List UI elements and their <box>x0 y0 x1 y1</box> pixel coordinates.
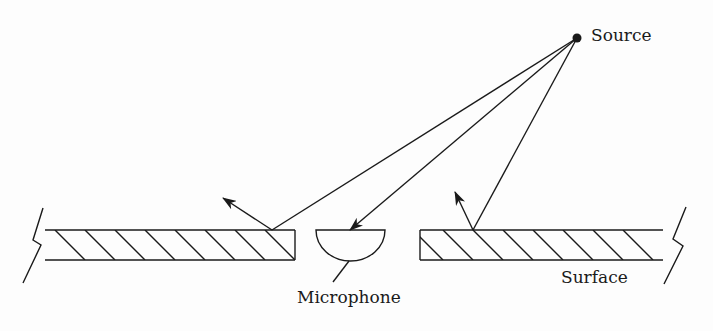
source-point <box>573 34 582 43</box>
microphone-label: Microphone <box>297 287 401 307</box>
left-break-mark <box>23 208 43 283</box>
left-surface-slab <box>45 230 295 260</box>
source-label: Source <box>591 25 652 45</box>
left-reflected-ray <box>223 198 272 230</box>
ray-to-right-reflection <box>473 38 577 230</box>
diagram-canvas: Source Microphone Surface <box>0 0 713 331</box>
right-surface-slab <box>413 230 663 260</box>
direct-ray-to-microphone <box>350 38 577 230</box>
ray-to-left-reflection <box>272 38 577 230</box>
microphone-icon <box>316 230 385 282</box>
right-hatching <box>413 230 653 260</box>
left-hatching <box>55 230 295 260</box>
right-reflected-ray <box>455 192 473 230</box>
right-break-mark <box>664 207 686 284</box>
surface-label: Surface <box>561 267 628 287</box>
